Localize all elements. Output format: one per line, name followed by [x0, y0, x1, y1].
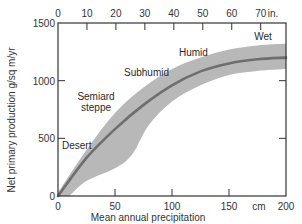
- x-top-tick-label: 60: [226, 8, 238, 19]
- y-axis-title: Net primary production g/sq m/yr: [6, 47, 17, 193]
- x-top-tick-label: 10: [81, 8, 93, 19]
- zone-label-semiarid: Semiard: [77, 91, 114, 102]
- npp-precipitation-chart: 050100150200 010203040506070 05001000150…: [0, 0, 302, 224]
- x-top-tick-label: 70: [255, 8, 267, 19]
- y-tick-label: 500: [38, 133, 55, 144]
- y-tick-label: 0: [49, 191, 55, 202]
- x-tick-label: 200: [278, 201, 295, 212]
- x-top-tick-label: 20: [110, 8, 122, 19]
- x-axis-top-ticks: 010203040506070: [55, 8, 266, 30]
- zone-label-subhumid: Subhumid: [124, 67, 169, 78]
- production-range-band: [58, 44, 286, 196]
- zone-label-wet: Wet: [254, 31, 272, 42]
- x-tick-label: 50: [109, 201, 121, 212]
- y-tick-label: 1000: [33, 76, 56, 87]
- x-top-tick-label: 50: [197, 8, 209, 19]
- x-unit-bottom: cm: [252, 201, 265, 212]
- x-top-tick-label: 0: [55, 8, 61, 19]
- x-tick-label: 100: [164, 201, 181, 212]
- y-tick-label: 1500: [33, 18, 56, 29]
- zone-label-desert: Desert: [62, 140, 92, 151]
- zone-label-humid: Humid: [179, 47, 208, 58]
- zone-label-steppe: steppe: [81, 102, 111, 113]
- x-top-tick-label: 30: [139, 8, 151, 19]
- x-tick-label: 0: [55, 201, 61, 212]
- x-tick-label: 150: [221, 201, 238, 212]
- x-unit-top: in.: [268, 8, 279, 19]
- x-axis-title: Mean annual precipitation: [91, 212, 206, 223]
- x-top-tick-label: 40: [168, 8, 180, 19]
